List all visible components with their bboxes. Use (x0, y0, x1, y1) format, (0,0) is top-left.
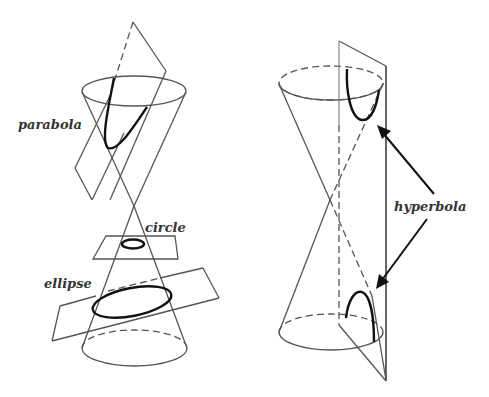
lower-cone-base-front (279, 332, 383, 350)
arrow-to-lower-branch (382, 219, 427, 280)
ellipse-plane-top-right-edge (160, 268, 203, 278)
upper-cone-right-side (134, 92, 186, 206)
ellipse-plane-right-edge (203, 268, 219, 298)
lower-cone-base-back (279, 314, 383, 332)
parabola-plane-right-edge (110, 71, 166, 200)
ellipse-plane-top-hidden-edge (108, 278, 160, 291)
hyperbola-lower-branch (346, 292, 374, 342)
arrow-head-upper-icon (377, 125, 391, 139)
lower-cone-base-front (82, 348, 187, 366)
upper-cone-left-side (279, 84, 330, 200)
arrow-to-upper-branch (383, 133, 434, 194)
ellipse-label: ellipse (44, 276, 92, 291)
circle-curve (122, 240, 144, 249)
upper-cone-rim (82, 76, 186, 106)
lower-cone-base-back (82, 330, 187, 348)
upper-cone-rim-front (279, 83, 383, 100)
ellipse-plane-left-edge (52, 306, 60, 341)
arrow-head-lower-icon (376, 274, 389, 289)
hyperbola-plane-top-edge (339, 41, 386, 66)
ellipse-plane-bottom-edge (52, 298, 219, 341)
lower-cone-left-side (279, 200, 330, 332)
parabola-label: parabola (18, 117, 82, 132)
parabola-curve (105, 78, 147, 148)
ellipse-curve (90, 281, 174, 324)
parabola-plane (75, 22, 166, 200)
parabola-plane-bottom-left-edge (75, 168, 92, 200)
circle-label: circle (145, 220, 186, 235)
right-double-cone (279, 66, 386, 380)
hyperbola-label: hyperbola (394, 199, 466, 214)
upper-cone-right-side-hidden (330, 84, 383, 200)
hyperbola-plane-bottom-edge (339, 325, 386, 381)
ellipse-plane-top-left-edge (60, 296, 96, 306)
conic-sections-diagram: parabola circle ellipse (0, 0, 489, 397)
hyperbola-upper-branch (347, 69, 379, 120)
lower-cone-right-side-hidden (330, 200, 372, 296)
parabola-plane-top-right-edge (133, 22, 166, 71)
